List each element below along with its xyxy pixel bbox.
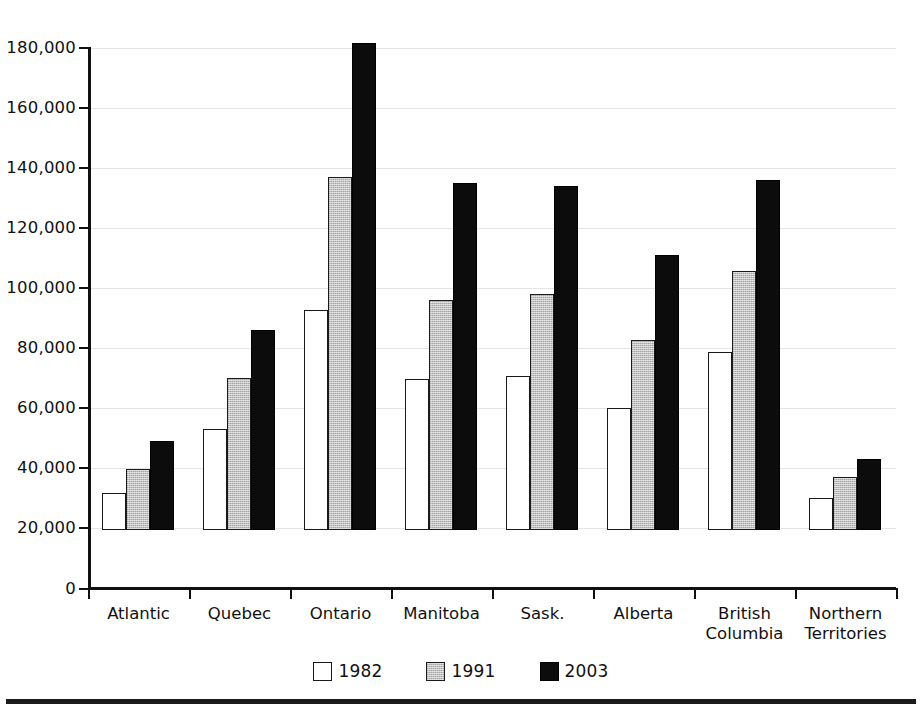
bar-2003-ontario xyxy=(352,43,376,529)
bar-2003-alberta xyxy=(655,255,679,530)
bar-1991-atlantic xyxy=(126,469,150,529)
x-label-sask-: Sask. xyxy=(492,604,593,624)
legend-item-2003[interactable]: 2003 xyxy=(540,661,609,681)
x-label-manitoba: Manitoba xyxy=(391,604,492,624)
chart-legend: 198219912003 xyxy=(0,655,922,687)
x-label-british-columbia: British Columbia xyxy=(694,604,795,644)
bar-1982-alberta xyxy=(607,408,631,530)
bottom-divider-rule xyxy=(6,699,916,704)
bar-2003-sask- xyxy=(554,186,578,530)
bar-1991-quebec xyxy=(227,378,251,530)
legend-item-1982[interactable]: 1982 xyxy=(313,661,382,681)
gray-square-icon xyxy=(426,662,445,681)
bar-2003-atlantic xyxy=(150,441,174,530)
bar-1982-manitoba xyxy=(405,379,429,529)
bars-layer xyxy=(0,0,922,660)
bar-1991-alberta xyxy=(631,340,655,529)
bar-1991-sask- xyxy=(530,294,554,530)
bar-chart-figure: 020,00040,00060,00080,000100,000120,0001… xyxy=(0,0,922,719)
bar-1982-atlantic xyxy=(102,493,126,529)
bar-2003-british-columbia xyxy=(756,180,780,530)
x-axis-category-labels: AtlanticQuebecOntarioManitobaSask.Albert… xyxy=(0,600,922,660)
bar-1982-sask- xyxy=(506,376,530,529)
black-square-icon xyxy=(540,662,559,681)
legend-label: 1991 xyxy=(451,661,495,681)
x-label-alberta: Alberta xyxy=(593,604,694,624)
bar-1982-northern-territories xyxy=(809,498,833,530)
legend-label: 2003 xyxy=(565,661,609,681)
bar-1991-northern-territories xyxy=(833,477,857,530)
x-label-ontario: Ontario xyxy=(290,604,391,624)
x-label-northern-territories: Northern Territories xyxy=(795,604,896,644)
bar-1991-manitoba xyxy=(429,300,453,530)
white-square-icon xyxy=(313,662,332,681)
legend-label: 1982 xyxy=(338,661,382,681)
legend-item-1991[interactable]: 1991 xyxy=(426,661,495,681)
bar-1982-quebec xyxy=(203,429,227,530)
x-label-quebec: Quebec xyxy=(189,604,290,624)
bar-2003-quebec xyxy=(251,330,275,530)
bar-1982-british-columbia xyxy=(708,352,732,529)
bar-2003-northern-territories xyxy=(857,459,881,530)
x-label-atlantic: Atlantic xyxy=(88,604,189,624)
bar-1991-british-columbia xyxy=(732,271,756,529)
bar-1991-ontario xyxy=(328,177,352,530)
bar-2003-manitoba xyxy=(453,183,477,530)
bar-1982-ontario xyxy=(304,310,328,529)
plot-area: 020,00040,00060,00080,000100,000120,0001… xyxy=(0,0,922,660)
